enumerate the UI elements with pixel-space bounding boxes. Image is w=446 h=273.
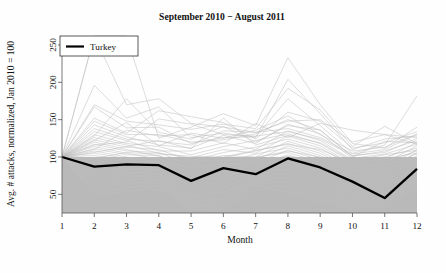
y-tick-label: 50 [48, 189, 58, 199]
x-tick-label: 7 [253, 221, 258, 231]
x-tick-label: 9 [318, 221, 323, 231]
x-axis-label: Month [227, 234, 253, 245]
x-tick-label: 1 [60, 221, 65, 231]
chart-canvas: 12345678910111250100150200250 September … [0, 0, 446, 273]
x-tick-label: 10 [348, 221, 358, 231]
y-tick-label: 100 [48, 150, 58, 164]
x-tick-label: 3 [124, 221, 129, 231]
y-tick-label: 150 [48, 112, 58, 126]
x-tick-label: 11 [380, 221, 389, 231]
y-tick-label: 200 [48, 75, 58, 89]
x-tick-label: 4 [157, 221, 162, 231]
legend[interactable]: Turkey [60, 36, 138, 56]
y-axis-label: Avg. # attacks, normalized, Jan 2010 = 1… [5, 41, 16, 207]
chart-figure: 12345678910111250100150200250 September … [0, 0, 446, 273]
chart-title: September 2010 − August 2011 [159, 11, 285, 22]
y-tick-label: 250 [48, 38, 58, 52]
legend-label-turkey: Turkey [90, 42, 117, 52]
x-tick-label: 12 [412, 221, 422, 231]
x-tick-label: 6 [221, 221, 226, 231]
x-tick-label: 2 [92, 221, 97, 231]
x-tick-label: 5 [189, 221, 194, 231]
x-tick-label: 8 [286, 221, 291, 231]
